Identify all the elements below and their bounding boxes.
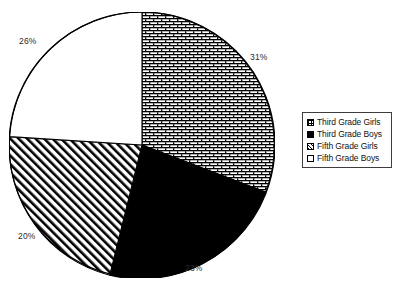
legend-item-fifth-grade-girls[interactable]: Fifth Grade Girls <box>307 140 388 152</box>
legend-item-fifth-grade-boys[interactable]: Fifth Grade Boys <box>307 152 388 164</box>
pie-svg <box>9 12 275 278</box>
legend-item-third-grade-boys[interactable]: Third Grade Boys <box>307 128 388 140</box>
legend-swatch-white-icon <box>307 155 314 162</box>
legend-item-label: Fifth Grade Girls <box>317 141 378 152</box>
pie-slice-fifth-grade-boys[interactable] <box>10 12 142 145</box>
legend-swatch-solid-icon <box>307 131 314 138</box>
legend-swatch-brick-icon <box>307 119 314 126</box>
slice-label-23: 23% <box>185 263 203 273</box>
chart-title-clipped <box>0 0 400 3</box>
legend-item-label: Third Grade Girls <box>317 117 380 128</box>
legend-swatch-hatch-icon <box>307 143 314 150</box>
chart-canvas: 31% 23% 20% 26% Third Grade Girls Third … <box>0 0 400 287</box>
legend-item-label: Third Grade Boys <box>317 129 382 140</box>
legend-item-third-grade-girls[interactable]: Third Grade Girls <box>307 116 388 128</box>
slice-label-31: 31% <box>250 52 268 62</box>
slice-label-20: 20% <box>18 231 36 241</box>
legend-item-label: Fifth Grade Boys <box>317 153 379 164</box>
chart-legend: Third Grade Girls Third Grade Boys Fifth… <box>302 112 392 168</box>
pie-chart <box>9 12 275 278</box>
slice-label-26: 26% <box>19 36 37 46</box>
